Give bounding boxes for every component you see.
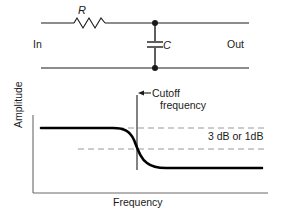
y-axis-label: Amplitude: [13, 81, 24, 128]
resistor-label: R: [78, 5, 86, 17]
circuit-schematic: [41, 18, 249, 71]
filter-figure: In Out R C Cutoff frequency 3 dB or 1dB …: [0, 0, 287, 218]
left-arrow-icon: [138, 91, 151, 96]
db-annotation: 3 dB or 1dB: [208, 131, 263, 142]
figure-canvas: [0, 0, 287, 218]
junction-dot-icon-bottom: [152, 65, 158, 71]
output-label: Out: [227, 39, 244, 50]
resistor-zigzag-icon: [74, 18, 105, 28]
x-axis-label: Frequency: [113, 197, 163, 208]
input-label: In: [33, 39, 42, 50]
cutoff-annotation-line2: frequency: [160, 100, 206, 111]
capacitor-label: C: [163, 40, 171, 52]
cutoff-annotation-line1: Cutoff: [152, 88, 180, 99]
junction-dot-icon-top: [152, 20, 158, 26]
